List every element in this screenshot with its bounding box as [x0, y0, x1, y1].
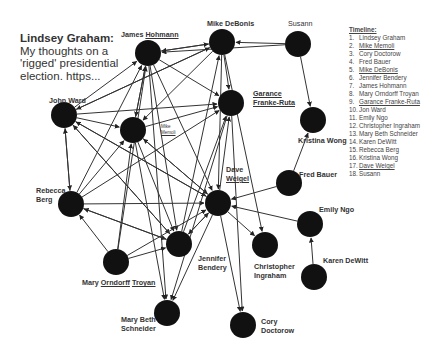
- timeline-item: 4.Fred Bauer: [349, 58, 420, 66]
- edge-susann-to-debonis: [236, 42, 285, 43]
- label-karen: Karen DeWitt: [323, 256, 368, 265]
- edge-garance-to-cory: [232, 116, 243, 311]
- edge-weigel-to-memoli: [144, 139, 209, 194]
- timeline-item-name: Mike Memoli: [359, 42, 394, 50]
- timeline-item-number: 14.: [349, 138, 359, 146]
- timeline-item: 7.James Hohmann: [349, 82, 420, 90]
- edge-susann-to-kristina: [301, 57, 311, 107]
- edge-memoli-to-garance: [146, 107, 218, 127]
- timeline-item: 3.Cory Doctorow: [349, 50, 420, 58]
- node-karen: [301, 264, 327, 290]
- timeline-item: 8.Mary Orndorff Troyan: [349, 90, 420, 98]
- timeline-item-name: Jennifer Bendery: [359, 74, 407, 82]
- edge-troyan-to-memoli: [118, 144, 132, 249]
- timeline-item-number: 5.: [349, 66, 359, 74]
- timeline-item-number: 11.: [349, 114, 359, 122]
- edge-karen-to-emily: [311, 238, 313, 264]
- node-susann: [285, 31, 311, 57]
- label-schneider: Mary BethSchneider: [121, 315, 156, 333]
- node-cory: [230, 312, 256, 338]
- timeline-item: 18.Susann: [349, 170, 420, 178]
- timeline-item-number: 1.: [349, 34, 359, 42]
- node-schneider: [154, 300, 180, 326]
- timeline-item: 16.Kristina Wong: [349, 154, 420, 162]
- title-author: Lindsey Graham:: [20, 32, 114, 44]
- label-ingraham: ChristopherIngraham: [254, 262, 295, 280]
- timeline-item-name: Cory Doctorow: [359, 50, 401, 58]
- timeline-item-name: Christopher Ingraham: [359, 122, 420, 130]
- diagram-title: Lindsey Graham: My thoughts on a 'rigged…: [20, 32, 120, 82]
- timeline-item: 1.Lindsey Graham: [349, 34, 420, 42]
- edge-rebecca-to-memoli: [79, 141, 124, 194]
- edge-weigel-to-ingraham: [228, 212, 255, 236]
- timeline-item-name: Jon Ward: [359, 106, 386, 114]
- timeline-item: 14.Karen DeWitt: [349, 138, 420, 146]
- timeline-item-number: 8.: [349, 90, 359, 98]
- edge-hohmann-to-garance: [159, 60, 219, 96]
- label-garance: GaranceFranke-Ruta: [253, 89, 295, 107]
- timeline-item: 10.Jon Ward: [349, 106, 420, 114]
- edge-jennifer-to-rebecca: [84, 209, 167, 240]
- timeline-item-number: 12.: [349, 122, 359, 130]
- label-hohmann: James Hohmann: [121, 30, 179, 39]
- timeline-item-name: Karen DeWitt: [359, 138, 396, 146]
- timeline-item: 2.Mike Memoli: [349, 42, 420, 50]
- edge-rebecca-to-johnward: [65, 129, 70, 191]
- timeline-item: 12.Christopher Ingraham: [349, 122, 420, 130]
- node-troyan: [103, 249, 129, 275]
- timeline-item-number: 2.: [349, 42, 359, 50]
- timeline-item: 5.Mike DeBonis: [349, 66, 420, 74]
- edge-troyan-to-hohmann: [118, 67, 146, 249]
- timeline-item: 9.Garance Franke-Ruta: [349, 98, 420, 106]
- timeline-item-name: Mary Beth Schneider: [359, 130, 418, 138]
- timeline-heading: Timeline:: [349, 26, 420, 34]
- timeline-legend: Timeline: 1.Lindsey Graham2.Mike Memoli3…: [349, 26, 420, 178]
- timeline-item-number: 3.: [349, 50, 359, 58]
- timeline-item-name: Garance Franke-Ruta: [359, 98, 420, 106]
- timeline-item-number: 15.: [349, 146, 359, 154]
- edge-emily-to-weigel: [232, 206, 298, 221]
- node-weigel: [205, 190, 231, 216]
- timeline-item-name: Rebecca Berg: [359, 146, 399, 154]
- label-susann: Susann: [288, 19, 312, 28]
- timeline-item-name: Kristina Wong: [359, 154, 398, 162]
- timeline-item-name: Fred Bauer: [359, 58, 391, 66]
- label-emily: Emily Ngo: [319, 205, 354, 214]
- timeline-item-name: Susann: [359, 170, 380, 178]
- edge-rebecca-to-weigel: [84, 203, 204, 204]
- label-johnward: John Ward: [49, 96, 86, 105]
- timeline-item: 6.Jennifer Bendery: [349, 74, 420, 82]
- edge-troyan-to-weigel: [127, 210, 206, 255]
- label-rebecca: RebeccaBerg: [36, 186, 66, 204]
- timeline-item-name: Emily Ngo: [359, 114, 388, 122]
- timeline-item: 15.Rebecca Berg: [349, 146, 420, 154]
- timeline-item-name: Mary Orndorff Troyan: [359, 90, 419, 98]
- edge-troyan-to-jennifer: [128, 248, 165, 259]
- edge-debonis-to-weigel: [218, 55, 221, 189]
- timeline-item-name: Dave Weigel: [359, 162, 395, 170]
- node-debonis: [209, 29, 235, 55]
- timeline-item-number: 17.: [349, 162, 359, 170]
- node-garance: [218, 90, 244, 116]
- timeline-item: 11.Emily Ngo: [349, 114, 420, 122]
- timeline-item-number: 9.: [349, 98, 359, 106]
- timeline-item-name: Mike DeBonis: [359, 66, 398, 74]
- label-debonis: Mike DeBonis: [207, 19, 254, 28]
- timeline-item-number: 13.: [349, 130, 359, 138]
- timeline-item-number: 6.: [349, 74, 359, 82]
- label-cory: CoryDoctorow: [261, 317, 294, 335]
- node-johnward: [51, 102, 77, 128]
- timeline-item-number: 4.: [349, 58, 359, 66]
- timeline-item-number: 10.: [349, 106, 359, 114]
- edge-troyan-to-rebecca: [80, 215, 108, 252]
- label-kristina: Kristina Wong: [298, 136, 347, 145]
- node-jennifer: [166, 231, 192, 257]
- timeline-item-number: 16.: [349, 154, 359, 162]
- timeline-item: 17.Dave Weigel: [349, 162, 420, 170]
- label-troyan: Mary Orndorff Troyan: [82, 278, 156, 287]
- label-fred: Fred Bauer: [299, 170, 337, 179]
- node-memoli: [120, 117, 146, 143]
- title-text: My thoughts on a 'rigged' presidential e…: [20, 45, 118, 82]
- edge-fred-to-weigel: [231, 187, 276, 200]
- timeline-item: 13.Mary Beth Schneider: [349, 130, 420, 138]
